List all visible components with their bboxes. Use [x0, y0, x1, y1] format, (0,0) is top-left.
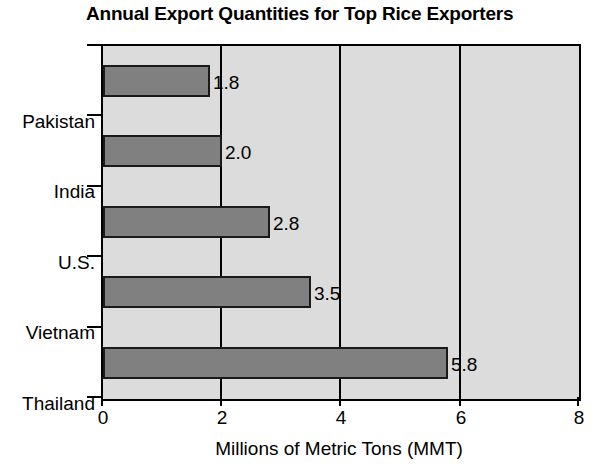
y-axis-label-india: India — [3, 182, 95, 201]
bar-us — [103, 206, 270, 238]
bar-value-vietnam: 3.5 — [314, 284, 340, 303]
x-axis-tick-2 — [220, 397, 222, 406]
bar-pakistan — [103, 65, 210, 97]
bar-thailand — [103, 347, 448, 379]
y-axis-tick-5 — [87, 396, 101, 398]
y-axis-label-vietnam: Vietnam — [3, 323, 95, 342]
gridline-x-6 — [459, 46, 461, 399]
bar-india — [103, 135, 222, 167]
x-axis-tick-label-4: 4 — [321, 407, 361, 429]
bar-value-pakistan: 1.8 — [213, 73, 239, 92]
bar-value-thailand: 5.8 — [451, 355, 477, 374]
y-axis-tick-3 — [87, 255, 101, 257]
y-axis-tick-2 — [87, 185, 101, 187]
x-axis-tick-label-6: 6 — [441, 407, 481, 429]
chart-title: Annual Export Quantities for Top Rice Ex… — [86, 1, 602, 27]
bar-value-us: 2.8 — [273, 214, 299, 233]
x-axis-tick-0 — [101, 397, 103, 406]
x-axis-tick-label-8: 8 — [559, 407, 599, 429]
bar-value-india: 2.0 — [225, 143, 251, 162]
bar-vietnam — [103, 276, 311, 308]
bar-chart-figure: Annual Export Quantities for Top Rice Ex… — [0, 0, 602, 472]
y-axis-tick-0 — [87, 44, 101, 46]
y-axis-category-labels: Pakistan India U.S. Vietnam Thailand — [0, 44, 95, 397]
x-axis-tick-label-0: 0 — [83, 407, 123, 429]
x-axis-tick-8 — [577, 397, 579, 406]
y-axis-label-pakistan: Pakistan — [3, 112, 95, 131]
y-axis-label-thailand: Thailand — [3, 394, 95, 413]
x-axis-tick-label-2: 2 — [202, 407, 242, 429]
x-axis-tick-6 — [459, 397, 461, 406]
x-axis-title: Millions of Metric Tons (MMT) — [101, 437, 577, 461]
y-axis-tick-4 — [87, 326, 101, 328]
plot-area — [101, 44, 581, 401]
x-axis-tick-4 — [339, 397, 341, 406]
y-axis-tick-1 — [87, 114, 101, 116]
y-axis-label-us: U.S. — [3, 253, 95, 272]
